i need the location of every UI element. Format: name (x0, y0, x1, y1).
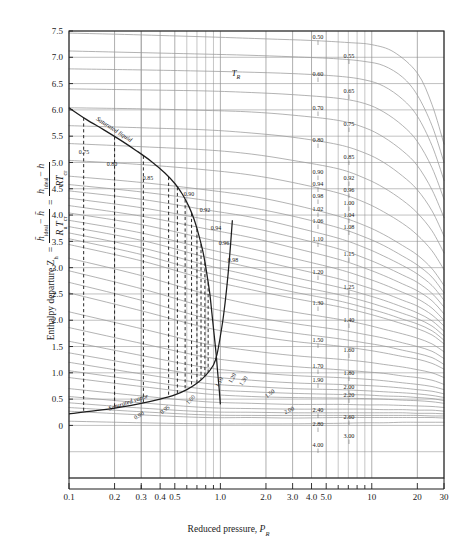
frac2-num-rest: − h (36, 164, 46, 178)
tr-label-col2: 1.00 (344, 199, 355, 206)
frac1-num-rest: − h̄ (36, 211, 46, 225)
tr-label-col1: 0.50 (313, 33, 324, 40)
x-axis-title-subscript: R (265, 530, 269, 537)
tr-label-col2: 1.08 (344, 223, 355, 230)
x-tick-label: 0.2 (109, 492, 120, 502)
tr-label-col1: 0.98 (313, 192, 324, 199)
quality-line-label: 0.90 (184, 191, 194, 197)
tr-label-col1: 4.00 (313, 441, 324, 448)
frac1-num-h: h̄ (36, 236, 46, 241)
tr-label-col2: 3.00 (344, 432, 355, 439)
tr-label-col1: 1.10 (313, 235, 324, 242)
tr-label-col2: 1.15 (344, 250, 355, 257)
frac1-den-sub-u: u (63, 227, 69, 230)
frac2-num-sub: ideal (43, 177, 49, 189)
tr-label-col2: 0.96 (344, 186, 355, 193)
tr-label-col1: 1.50 (313, 336, 324, 343)
tr-label-col2: 1.40 (344, 316, 355, 323)
y-axis-fraction-1: h̄ideal− h̄ RuTcr (31, 209, 69, 243)
tr-label-col1: 1.70 (313, 362, 324, 369)
frac1-num-sub: ideal (43, 225, 49, 237)
tr-label-col1: 2.40 (313, 406, 324, 413)
tr-label-col1: 0.94 (313, 180, 324, 187)
tr-label-col1: 0.70 (313, 104, 324, 111)
quality-line-label: 0.80 (107, 161, 117, 167)
tr-label-col1: 1.20 (313, 268, 324, 275)
y-axis-frac1-numerator: h̄ideal− h̄ (31, 209, 50, 243)
x-tick-label: 0.3 (136, 492, 148, 502)
y-axis-title-lead: Enthalpy departure Z (46, 260, 56, 341)
quality-line-label: 0.94 (211, 225, 221, 231)
x-tick-label: 30 (440, 492, 450, 502)
y-axis-title-lead-sub: h (52, 256, 59, 259)
tr-label-col1: 0.60 (313, 70, 324, 77)
x-tick-label: 0.4 (155, 492, 167, 502)
tr-label-col2: 0.92 (344, 174, 355, 181)
y-axis-frac1-denominator: RuTcr (51, 209, 69, 243)
x-tick-label: 2.0 (260, 492, 272, 502)
x-tick-label: 4.0 (306, 492, 318, 502)
tr-label-col1: 1.06 (313, 217, 324, 224)
x-axis-title-text: Reduced pressure, (188, 524, 260, 534)
quality-line-label: 0.96 (219, 240, 229, 246)
tr-label-col2: 0.65 (344, 87, 355, 94)
tr-label-col1: 0.90 (313, 168, 324, 175)
y-axis-frac2-denominator: RTcr (51, 162, 69, 196)
enthalpy-departure-chart: 00.51.01.52.02.53.03.54.04.55.05.56.06.5… (0, 0, 457, 554)
x-tick-label: 20 (413, 492, 423, 502)
tr-label-col2: 0.85 (344, 153, 355, 160)
tr-label-col1: 2.80 (313, 420, 324, 427)
frac1-den-T: T (56, 221, 66, 226)
frac2-den-RT: RT (56, 175, 66, 186)
y-axis-title: Enthalpy departure Zh = h̄ideal− h̄ RuTc… (31, 51, 69, 451)
x-tick-label: 5.0 (321, 492, 333, 502)
x-axis-title: Reduced pressure, PR (0, 518, 457, 537)
quality-line-label: 0.85 (143, 175, 153, 181)
tr-label-col2: 2.00 (344, 383, 355, 390)
quality-line-label: 0.92 (200, 207, 210, 213)
frac1-den-R: R (56, 230, 66, 236)
y-axis-frac2-numerator: hideal− h (31, 162, 50, 196)
frac2-den-sub-cr: cr (63, 171, 69, 176)
quality-line-label: 0.75 (79, 149, 89, 155)
tr-label-col2: 1.60 (344, 346, 355, 353)
x-tick-label: 10 (367, 492, 377, 502)
tr-label-col2: 1.04 (344, 211, 355, 218)
frac1-den-sub-cr: cr (63, 217, 69, 222)
tr-label-col2: 0.75 (344, 120, 355, 127)
x-tick-label: 3.0 (287, 492, 299, 502)
tr-label-col2: 2.20 (344, 391, 355, 398)
tr-label-col2: 0.55 (344, 52, 355, 59)
quality-line-label: 0.98 (228, 257, 238, 263)
y-axis-fraction-2: hideal− h RTcr (31, 162, 69, 196)
tr-label-col2: 1.25 (344, 283, 355, 290)
tr-label-col1: 1.02 (313, 205, 324, 212)
tr-label-col2: 2.60 (344, 413, 355, 420)
y-axis-eq-1: = (46, 247, 56, 252)
x-tick-label: 0.5 (169, 492, 181, 502)
tr-label-col1: 1.90 (313, 376, 324, 383)
tr-label-col2: 1.80 (344, 369, 355, 376)
y-axis-eq-2: = (46, 200, 56, 205)
tr-label-col1: 0.80 (313, 136, 324, 143)
x-tick-label: 0.1 (63, 492, 74, 502)
frac2-num-h: h (36, 189, 46, 194)
y-tick-label: 7.5 (52, 26, 64, 36)
x-tick-label: 1.0 (215, 492, 227, 502)
tr-label-col1: 1.30 (313, 299, 324, 306)
